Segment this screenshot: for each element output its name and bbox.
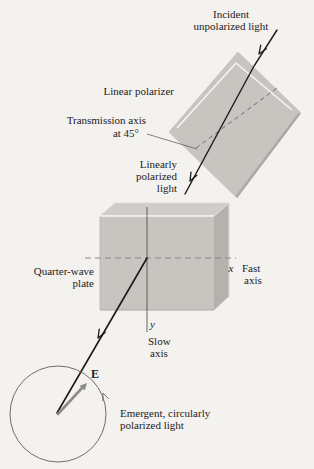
linear-polarizer-slab <box>170 53 300 197</box>
incident-light-line2: unpolarized light <box>194 20 269 32</box>
quarter-wave-line2: plate <box>73 277 94 289</box>
emergent-light-line2: polarized light <box>120 419 184 431</box>
emergent-light-line1: Emergent, circularly <box>120 407 211 419</box>
incident-light-line1: Incident <box>213 8 249 20</box>
textbook-figure: Incident unpolarized light Linear polari… <box>0 0 314 469</box>
linearly-polarized-label: Linearly polarized light <box>136 158 177 194</box>
transmission-axis-label: Transmission axis at 45° <box>67 114 146 139</box>
slow-axis-symbol: y <box>149 318 155 330</box>
quarter-wave-plate <box>100 203 229 310</box>
incident-light-label: Incident unpolarized light <box>194 8 269 32</box>
transmission-axis-line2: at 45° <box>113 127 139 139</box>
transmission-axis-line1: Transmission axis <box>67 114 146 126</box>
fast-axis-line2: axis <box>244 274 262 286</box>
qwp-front-face <box>100 216 214 310</box>
linearly-polarized-line1: Linearly <box>140 158 178 170</box>
qwp-side-face <box>214 203 229 310</box>
quarter-wave-plate-label: Quarter-wave plate <box>34 265 94 289</box>
fast-axis-line1: Fast <box>242 262 260 274</box>
linearly-polarized-line2: polarized <box>136 170 177 182</box>
figure-canvas: Incident unpolarized light Linear polari… <box>0 0 314 469</box>
fast-axis-label: x Fast axis <box>228 262 262 286</box>
slow-axis-line2: axis <box>150 347 168 359</box>
linear-polarizer-label: Linear polarizer <box>103 85 174 97</box>
fast-axis-symbol: x <box>228 262 234 274</box>
polarizer-face <box>170 53 300 197</box>
e-vector-label: E <box>91 367 99 381</box>
qwp-top-face <box>100 203 229 216</box>
slow-axis-line1: Slow <box>148 335 171 347</box>
quarter-wave-line1: Quarter-wave <box>34 265 94 277</box>
slow-axis-label: y Slow axis <box>148 318 171 359</box>
linearly-polarized-line3: light <box>157 182 177 194</box>
emergent-light-label: Emergent, circularly polarized light <box>120 407 211 431</box>
